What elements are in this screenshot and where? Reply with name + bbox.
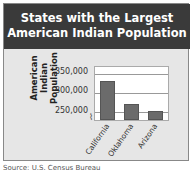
source-note: Source: U.S. Census Bureau xyxy=(3,164,100,172)
y-tick-350000: 350,000 xyxy=(38,67,88,76)
y-tick-250000: 250,000 xyxy=(38,106,88,115)
y-label-line-2: Population xyxy=(49,48,59,108)
y-axis-label: American Indian Population xyxy=(29,48,59,108)
plot-area xyxy=(94,66,169,121)
bar-oklahoma xyxy=(124,104,139,120)
chart-frame: States with the Largest American Indian … xyxy=(3,3,189,161)
title-line-2: American Indian Population xyxy=(4,26,190,41)
bar-california xyxy=(100,81,115,120)
title-line-1: States with the Largest xyxy=(4,11,190,26)
axis-break-icon: ⌇ xyxy=(89,112,93,122)
y-label-line-1: American Indian xyxy=(29,48,49,108)
chart-title: States with the Largest American Indian … xyxy=(4,4,190,49)
gridline xyxy=(95,74,168,75)
bar-arizona xyxy=(148,111,163,120)
y-tick-300000: 300,000 xyxy=(38,86,88,95)
